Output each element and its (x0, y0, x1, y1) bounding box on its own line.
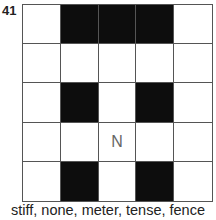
grid-cell[interactable] (174, 83, 212, 122)
grid-cell[interactable] (99, 44, 137, 83)
black-cell (136, 162, 174, 201)
word-list: stiff, none, meter, tense, fence (0, 202, 216, 218)
black-cell (136, 5, 174, 44)
grid-cell[interactable] (23, 162, 61, 201)
grid-cell[interactable] (23, 123, 61, 162)
black-cell (61, 162, 99, 201)
crossword-grid: N (22, 4, 213, 202)
grid-cell[interactable] (136, 123, 174, 162)
grid-cell[interactable] (136, 44, 174, 83)
grid-cell[interactable] (174, 123, 212, 162)
black-cell (136, 83, 174, 122)
grid-cell[interactable] (174, 5, 212, 44)
black-cell (61, 5, 99, 44)
grid-cell[interactable] (61, 123, 99, 162)
black-cell (99, 5, 137, 44)
grid-cell[interactable] (174, 162, 212, 201)
grid-cell[interactable]: N (99, 123, 137, 162)
black-cell (61, 83, 99, 122)
puzzle-number: 41 (2, 3, 16, 18)
grid-cell[interactable] (61, 44, 99, 83)
grid-cell[interactable] (174, 44, 212, 83)
grid-cell[interactable] (23, 44, 61, 83)
grid-cell[interactable] (99, 83, 137, 122)
grid-cell[interactable] (23, 83, 61, 122)
grid-cell[interactable] (99, 162, 137, 201)
grid-cell[interactable] (23, 5, 61, 44)
